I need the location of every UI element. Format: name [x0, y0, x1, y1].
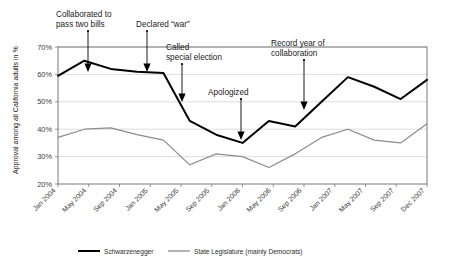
annotation-label-line1: Collaborated to — [56, 10, 112, 19]
y-axis-title: Approval among all California adults in … — [12, 46, 20, 174]
annotation-label-line1: Declared “war” — [136, 20, 190, 29]
x-tick-label-sep-2005: Sep 2005 — [184, 187, 211, 214]
annotation-label-line2: pass two bills — [56, 20, 105, 29]
annotation-collaborated-two-bills: Collaborated to pass two bills — [56, 10, 112, 72]
y-tick-label-60: 60% — [37, 70, 52, 79]
x-tick-label-sep-2006: Sep 2006 — [277, 187, 304, 214]
chart-legend: Schwarzenegger State Legislature (mainly… — [78, 248, 302, 256]
annotation-arrow-head-icon — [300, 102, 307, 111]
x-tick-label-may-2005: May 2005 — [153, 187, 180, 214]
x-tick-labels: Jan 2004 May 2004 Sep 2004 Jan 2005 May … — [31, 187, 425, 214]
x-tick-label-jan-2006: Jan 2006 — [216, 187, 241, 212]
x-tick-label-jan-2004: Jan 2004 — [31, 187, 56, 212]
annotation-arrow-head-icon — [84, 64, 91, 73]
x-tick-label-may-2007: May 2007 — [338, 187, 365, 214]
y-tick-label-50: 50% — [37, 97, 52, 106]
y-tick-labels: 70% 60% 50% 40% 30% 20% — [37, 43, 52, 189]
annotation-label-line2: special election — [166, 53, 222, 62]
series-line-state-legislature — [58, 124, 427, 168]
chart-svg: Approval among all California adults in … — [0, 0, 459, 270]
gridlines — [58, 47, 427, 157]
y-tick-label-40: 40% — [37, 125, 52, 134]
annotation-label-line1: Called — [166, 43, 190, 52]
annotation-label-line2: collaboration — [271, 49, 318, 58]
plot-frame — [58, 47, 427, 184]
x-tick-label-sep-2004: Sep 2004 — [92, 187, 119, 214]
legend-label-state-legislature: State Legislature (mainly Democrats) — [194, 248, 302, 256]
annotation-label-line1: Apologized — [208, 88, 249, 97]
x-tick-label-sep-2007: Sep 2007 — [369, 187, 396, 214]
legend-label-schwarzenegger: Schwarzenegger — [104, 248, 154, 256]
annotation-apologized: Apologized — [208, 88, 249, 140]
annotation-arrow-head-icon — [143, 64, 150, 73]
x-tick-label-may-2006: May 2006 — [245, 187, 272, 214]
x-tick-label-may-2004: May 2004 — [61, 187, 88, 214]
approval-line-chart: Approval among all California adults in … — [0, 0, 459, 270]
annotation-arrow-head-icon — [237, 132, 244, 141]
x-tick-label-jan-2005: Jan 2005 — [124, 187, 149, 212]
y-tick-label-70: 70% — [37, 43, 52, 52]
x-tick-label-jan-2007: Jan 2007 — [308, 187, 333, 212]
y-tick-label-30: 30% — [37, 152, 52, 161]
x-tick-label-dec-2007: Dec 2007 — [400, 187, 426, 213]
annotation-label-line1: Record year of — [271, 39, 325, 48]
